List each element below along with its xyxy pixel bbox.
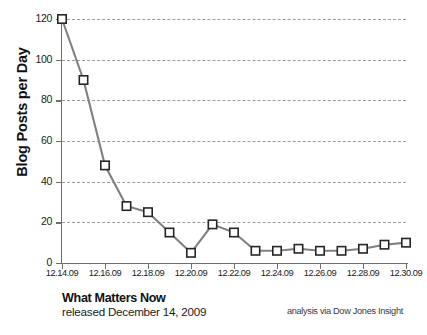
data-point-12.14.09 — [58, 15, 66, 23]
data-point-12.23.09 — [251, 247, 259, 255]
data-point-12.17.09 — [122, 202, 130, 210]
data-point-12.28.09 — [359, 245, 367, 253]
data-point-12.25.09 — [294, 245, 302, 253]
data-point-12.27.09 — [337, 247, 345, 255]
data-point-12.22.09 — [230, 228, 238, 236]
data-point-12.19.09 — [165, 228, 173, 236]
series-line — [62, 19, 406, 253]
caption-source: analysis via Dow Jones Insight — [287, 306, 403, 316]
data-point-12.24.09 — [273, 247, 281, 255]
data-point-12.30.09 — [402, 238, 410, 246]
data-point-12.26.09 — [316, 247, 324, 255]
data-point-12.16.09 — [101, 161, 109, 169]
data-point-12.29.09 — [380, 241, 388, 249]
series-markers — [58, 15, 410, 257]
caption-block: What Matters Now released December 14, 2… — [62, 291, 412, 319]
data-point-12.21.09 — [208, 220, 216, 228]
data-point-12.15.09 — [79, 76, 87, 84]
data-point-12.18.09 — [144, 208, 152, 216]
caption-title: What Matters Now — [62, 291, 412, 305]
data-point-12.20.09 — [187, 249, 195, 257]
